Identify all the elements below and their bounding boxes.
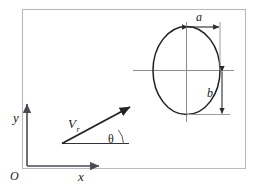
- dimension-a-group: a: [187, 10, 221, 71]
- velocity-subscript: r: [76, 125, 80, 134]
- diagram-canvas: y x O Vr θ: [0, 0, 258, 185]
- dimension-b-label: b: [207, 86, 213, 100]
- y-axis-label: y: [11, 110, 19, 125]
- dimension-b-group: b: [187, 72, 231, 115]
- angle-theta-label: θ: [108, 132, 114, 146]
- figure-container: y x O Vr θ: [0, 0, 258, 185]
- dimension-a-label: a: [196, 10, 202, 24]
- ellipse-group: [133, 23, 234, 122]
- velocity-vector-label: Vr: [68, 116, 80, 134]
- angle-arc: [118, 130, 123, 144]
- velocity-vector-group: Vr θ: [62, 107, 130, 146]
- origin-label: O: [10, 169, 19, 183]
- x-axis-label: x: [77, 169, 84, 184]
